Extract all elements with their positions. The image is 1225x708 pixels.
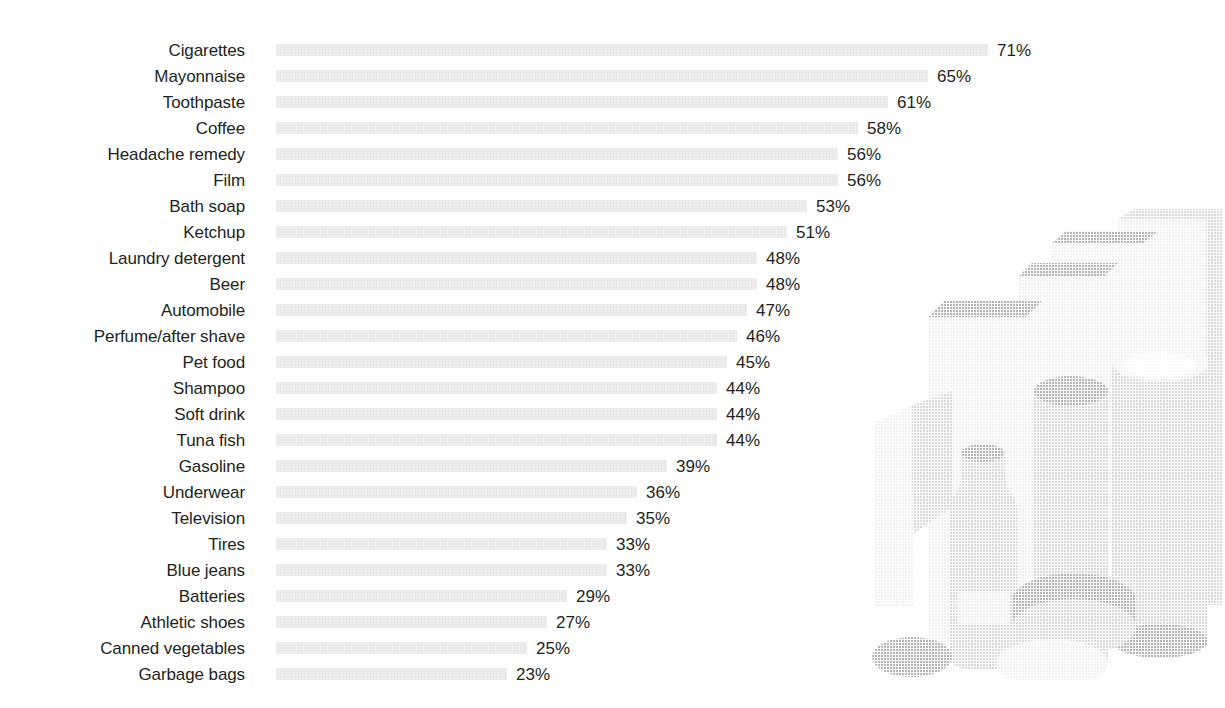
- value-label: 44%: [726, 375, 760, 401]
- bar: [276, 382, 717, 394]
- category-label: Headache remedy: [0, 146, 245, 163]
- bar: [276, 122, 858, 134]
- category-label: Batteries: [0, 588, 245, 605]
- bar: [276, 200, 807, 212]
- chart-row: Headache remedy56%: [0, 141, 1225, 167]
- bar: [276, 70, 928, 82]
- chart-row: Television35%: [0, 505, 1225, 531]
- bar: [276, 564, 607, 576]
- value-label: 46%: [746, 323, 780, 349]
- category-label: Soft drink: [0, 406, 245, 423]
- bar-zone: 44%: [276, 375, 1225, 401]
- bar-zone: 53%: [276, 193, 1225, 219]
- value-label: 44%: [726, 401, 760, 427]
- bar-zone: 27%: [276, 609, 1225, 635]
- chart-row: Coffee58%: [0, 115, 1225, 141]
- category-label: Underwear: [0, 484, 245, 501]
- category-label: Perfume/after shave: [0, 328, 245, 345]
- chart-row: Soft drink44%: [0, 401, 1225, 427]
- value-label: 25%: [536, 635, 570, 661]
- chart-row: Toothpaste61%: [0, 89, 1225, 115]
- bar: [276, 590, 567, 602]
- bar: [276, 330, 737, 342]
- bar-zone: 48%: [276, 271, 1225, 297]
- bar: [276, 616, 547, 628]
- chart-row: Tires33%: [0, 531, 1225, 557]
- chart-row: Cigarettes71%: [0, 37, 1225, 63]
- category-label: Toothpaste: [0, 94, 245, 111]
- chart-row: Film56%: [0, 167, 1225, 193]
- value-label: 44%: [726, 427, 760, 453]
- chart-row: Shampoo44%: [0, 375, 1225, 401]
- category-label: Athletic shoes: [0, 614, 245, 631]
- bar: [276, 278, 757, 290]
- value-label: 47%: [756, 297, 790, 323]
- bar-zone: 25%: [276, 635, 1225, 661]
- value-label: 58%: [867, 115, 901, 141]
- bar-zone: 48%: [276, 245, 1225, 271]
- category-label: Beer: [0, 276, 245, 293]
- bar-zone: 61%: [276, 89, 1225, 115]
- chart-row: Mayonnaise65%: [0, 63, 1225, 89]
- chart-row: Garbage bags23%: [0, 661, 1225, 687]
- bar: [276, 304, 747, 316]
- bar-zone: 44%: [276, 427, 1225, 453]
- bar-zone: 56%: [276, 167, 1225, 193]
- chart-row: Automobile47%: [0, 297, 1225, 323]
- bar-zone: 47%: [276, 297, 1225, 323]
- value-label: 27%: [556, 609, 590, 635]
- bar: [276, 512, 627, 524]
- bar: [276, 486, 637, 498]
- bar: [276, 148, 838, 160]
- category-label: Mayonnaise: [0, 68, 245, 85]
- category-label: Garbage bags: [0, 666, 245, 683]
- value-label: 36%: [646, 479, 680, 505]
- value-label: 71%: [997, 37, 1031, 63]
- bar-zone: 44%: [276, 401, 1225, 427]
- bar: [276, 460, 667, 472]
- category-label: Automobile: [0, 302, 245, 319]
- bar: [276, 252, 757, 264]
- chart-row: Ketchup51%: [0, 219, 1225, 245]
- bar-zone: 71%: [276, 37, 1225, 63]
- bar-zone: 39%: [276, 453, 1225, 479]
- category-label: Laundry detergent: [0, 250, 245, 267]
- value-label: 33%: [616, 557, 650, 583]
- value-label: 48%: [766, 245, 800, 271]
- value-label: 39%: [676, 453, 710, 479]
- bar: [276, 356, 727, 368]
- chart-page: Cigarettes71%Mayonnaise65%Toothpaste61%C…: [0, 0, 1225, 708]
- chart-row: Pet food45%: [0, 349, 1225, 375]
- bar-zone: 33%: [276, 557, 1225, 583]
- chart-row: Laundry detergent48%: [0, 245, 1225, 271]
- value-label: 65%: [937, 63, 971, 89]
- category-label: Blue jeans: [0, 562, 245, 579]
- category-label: Film: [0, 172, 245, 189]
- value-label: 29%: [576, 583, 610, 609]
- bar-zone: 23%: [276, 661, 1225, 687]
- bar-zone: 36%: [276, 479, 1225, 505]
- chart-row: Gasoline39%: [0, 453, 1225, 479]
- bar-zone: 65%: [276, 63, 1225, 89]
- category-label: Bath soap: [0, 198, 245, 215]
- category-label: Coffee: [0, 120, 245, 137]
- category-label: Tuna fish: [0, 432, 245, 449]
- category-label: Ketchup: [0, 224, 245, 241]
- category-label: Canned vegetables: [0, 640, 245, 657]
- bar: [276, 44, 988, 56]
- category-label: Shampoo: [0, 380, 245, 397]
- bar-zone: 58%: [276, 115, 1225, 141]
- bar: [276, 538, 607, 550]
- chart-row: Canned vegetables25%: [0, 635, 1225, 661]
- value-label: 56%: [847, 141, 881, 167]
- chart-row: Athletic shoes27%: [0, 609, 1225, 635]
- category-label: Television: [0, 510, 245, 527]
- horizontal-bar-chart: Cigarettes71%Mayonnaise65%Toothpaste61%C…: [0, 37, 1225, 687]
- bar: [276, 96, 888, 108]
- chart-row: Tuna fish44%: [0, 427, 1225, 453]
- value-label: 35%: [636, 505, 670, 531]
- value-label: 33%: [616, 531, 650, 557]
- bar: [276, 408, 717, 420]
- chart-row: Blue jeans33%: [0, 557, 1225, 583]
- chart-row: Batteries29%: [0, 583, 1225, 609]
